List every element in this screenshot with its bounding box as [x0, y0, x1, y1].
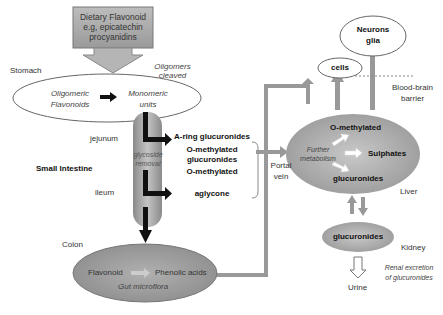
ileum-label: ileum — [95, 188, 114, 197]
urine-label: Urine — [348, 283, 367, 292]
cells-label: cells — [318, 63, 362, 72]
neurons-glia-label: Neuronsglia — [345, 24, 401, 46]
urine-arrow — [350, 257, 366, 278]
further-metabolism-label: Furthermetabolism — [296, 145, 340, 163]
monomeric-units: Monomericunits — [118, 88, 178, 110]
liver-sulphates: Sulphates — [368, 149, 406, 158]
jejunum-label: jejunum — [90, 134, 118, 143]
renal-excretion-note: Renal excretionof glucuronides — [375, 263, 443, 283]
oligomeric-flavonoids: OligomericFlavonoids — [40, 88, 100, 110]
product-aglycone: aglycone — [172, 189, 252, 198]
glycoside-removal-label: glycosideremoval — [128, 150, 168, 168]
blood-brain-barrier-label: Blood-brainbarrier — [385, 82, 440, 104]
colon-flavonoid: Flavonoid — [88, 268, 123, 277]
kidney-glucuronides: glucuronides — [326, 232, 390, 241]
product-o-methylated: O-methylated — [172, 167, 252, 176]
liver-kidney-arrows — [347, 195, 368, 216]
source-label: Dietary Flavonoide.g, epicatechinprocyan… — [73, 12, 153, 42]
small-intestine-label: Small Intestine — [36, 164, 92, 173]
product-a-ring-glucuronides: A-ring glucuronides — [172, 132, 252, 141]
oligomers-cleaved-note: Oligomerscleaved — [150, 62, 195, 80]
liver-glucuronides: glucuronides — [333, 174, 383, 183]
liver-o-methylated: O-methylated — [330, 123, 381, 132]
colon-label: Colon — [62, 240, 83, 249]
gut-microflora-label: Gut microflora — [118, 282, 168, 291]
colon-phenolic-acids: Phenolic acids — [155, 268, 207, 277]
stomach-label: Stomach — [10, 66, 42, 75]
liver-label: Liver — [400, 187, 417, 196]
portal-vein-label: Portalvein — [266, 160, 296, 182]
product-o-methylated-glucuronides: O-methylatedglucuronides — [172, 145, 252, 165]
kidney-label: Kidney — [401, 243, 425, 252]
